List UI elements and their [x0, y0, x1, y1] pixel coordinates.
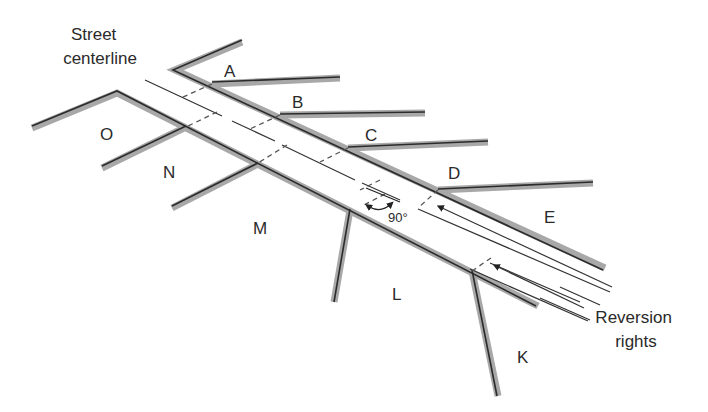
lot-label-e: E: [544, 208, 555, 227]
street-centerline-label-line1: Street: [71, 25, 117, 44]
lot-label-o: O: [100, 125, 113, 144]
lot-label-m: M: [253, 219, 267, 238]
lot-label-n: N: [163, 163, 175, 182]
reversion-rights-label: Reversion rights: [595, 308, 676, 351]
lot-label-d: D: [448, 164, 460, 183]
reversion-rights-label-line2: rights: [615, 332, 657, 351]
street-centerline-label-line2: centerline: [63, 49, 137, 68]
lot-label-k: K: [517, 348, 529, 367]
lot-label-a: A: [224, 62, 236, 81]
lot-label-b: B: [292, 93, 303, 112]
reversion-rights-label-line1: Reversion: [595, 308, 672, 327]
angle-label: 90°: [388, 210, 408, 225]
right-angle-indicator: [366, 188, 400, 210]
street-reversion-diagram: 90° Street centerline Reversion rights A…: [0, 0, 708, 412]
lot-label-l: L: [392, 285, 401, 304]
lot-label-c: C: [365, 126, 377, 145]
street-centerline: [145, 80, 400, 200]
street-centerline-label: Street centerline: [63, 25, 137, 68]
